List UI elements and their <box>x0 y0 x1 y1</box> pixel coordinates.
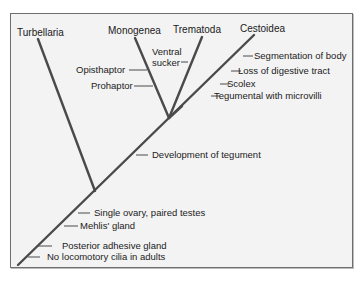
taxon-trematoda: Trematoda <box>173 24 221 35</box>
char-no-cilia: No locomotory cilia in adults <box>47 251 165 262</box>
char-mehlis-gland: Mehlis' gland <box>80 220 135 231</box>
char-loss-digestive: Loss of digestive tract <box>238 65 330 76</box>
char-ventral: Ventral <box>152 46 182 57</box>
char-sucker: sucker <box>152 57 180 68</box>
char-development-tegument: Development of tegument <box>152 149 261 160</box>
char-segmentation: Segmentation of body <box>254 50 346 61</box>
taxon-turbellaria: Turbellaria <box>17 27 64 38</box>
char-prohaptor: Prohaptor <box>91 80 133 91</box>
char-opisthaptor: Opisthaptor <box>76 64 125 75</box>
turbellaria-branch <box>38 39 95 191</box>
char-posterior-adhesive: Posterior adhesive gland <box>62 240 167 251</box>
taxon-monogenea: Monogenea <box>108 25 161 36</box>
cladogram-lines <box>0 0 364 283</box>
char-scolex: Scolex <box>227 78 256 89</box>
char-tegumental-microvilli: Tegumental with microvilli <box>214 90 322 101</box>
char-single-ovary: Single ovary, paired testes <box>94 207 205 218</box>
taxon-cestoidea: Cestoidea <box>240 23 285 34</box>
